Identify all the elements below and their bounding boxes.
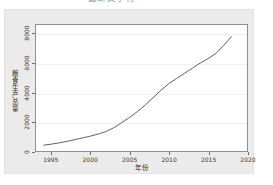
- x-tick-mark: [209, 152, 210, 155]
- y-tick-label: 0: [27, 152, 33, 156]
- x-tick-mark: [248, 152, 249, 155]
- y-tick-label: 6000: [27, 63, 33, 78]
- x-tick-label: 2020: [240, 156, 255, 163]
- x-tick-label: 2005: [122, 156, 137, 163]
- x-tick-mark: [51, 152, 52, 155]
- series-line-chart: [36, 25, 247, 151]
- x-tick-label: 2015: [201, 156, 216, 163]
- y-tick-label: 8000: [27, 33, 33, 48]
- x-tick-mark: [169, 152, 170, 155]
- x-tick-mark: [90, 152, 91, 155]
- series-line: [44, 37, 232, 145]
- x-tick-label: 2010: [161, 156, 176, 163]
- x-tick-mark: [130, 152, 131, 155]
- x-tick-label: 2000: [83, 156, 98, 163]
- y-tick-label: 4000: [27, 93, 33, 108]
- chart-figure: 截断文字行 粮食生产总量 02000400060008000 199520002…: [0, 0, 273, 185]
- figure-panel: 粮食生产总量 02000400060008000 199520002005201…: [4, 9, 254, 174]
- plot-area: [35, 24, 248, 152]
- cut-off-header-text: 截断文字行: [88, 0, 273, 3]
- x-tick-label: 1995: [43, 156, 58, 163]
- y-tick-label: 2000: [27, 122, 33, 137]
- x-axis-title: 年份: [35, 164, 248, 172]
- y-axis: 02000400060008000: [5, 10, 35, 173]
